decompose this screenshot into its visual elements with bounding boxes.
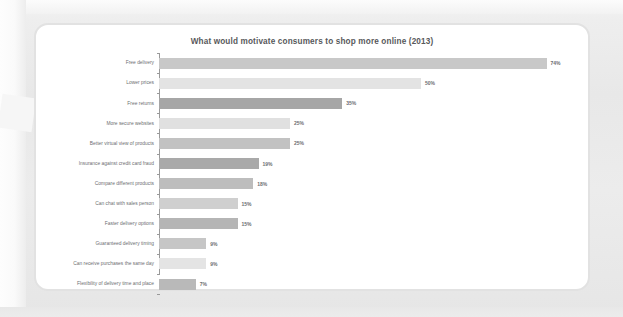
chart-title: What would motivate consumers to shop mo… [36, 37, 588, 46]
plot-area: Free delivery74%Lower prices50%Free retu… [56, 53, 578, 275]
bar [159, 238, 206, 249]
bar-track: 74% [159, 53, 578, 73]
bar-value-label: 7% [200, 281, 207, 287]
bar-value-label: 9% [210, 241, 217, 247]
bar-category-label: Better virtual view of products [56, 141, 159, 146]
bar [159, 279, 196, 290]
bar-track: 25% [159, 113, 578, 133]
bar-track: 9% [159, 234, 578, 254]
bar-track: 25% [159, 133, 578, 153]
bar-category-label: Lower prices [56, 80, 159, 85]
bar-category-label: Faster delivery options [56, 221, 159, 226]
bar-category-label: Flexibility of delivery time and place [56, 281, 159, 286]
chart-card: What would motivate consumers to shop mo… [34, 23, 590, 291]
bar-category-label: Free delivery [56, 60, 159, 65]
bar-value-label: 50% [425, 80, 435, 86]
bar [159, 118, 290, 129]
bar-row: Can receive purchases the same day9% [56, 254, 578, 274]
bar-row: Can chat with sales person15% [56, 194, 578, 214]
bar-row: Free delivery74% [56, 53, 578, 73]
paper-edge-top [0, 0, 623, 14]
bar-value-label: 74% [551, 60, 561, 66]
bar [159, 158, 259, 169]
bar-row: More secure websites25% [56, 113, 578, 133]
bar [159, 98, 342, 109]
bar-track: 35% [159, 93, 578, 113]
bar-category-label: Compare different products [56, 181, 159, 186]
bar-row: Insurance against credit card fraud19% [56, 153, 578, 173]
axis-tick [157, 294, 160, 295]
paper-edge-left [0, 0, 26, 317]
bar [159, 138, 290, 149]
bar-value-label: 18% [257, 181, 267, 187]
bar-row: Better virtual view of products25% [56, 133, 578, 153]
bar [159, 198, 238, 209]
bar-row: Free returns35% [56, 93, 578, 113]
bar-rows-container: Free delivery74%Lower prices50%Free retu… [56, 53, 578, 294]
bar-row: Flexibility of delivery time and place7% [56, 274, 578, 294]
bar-track: 15% [159, 194, 578, 214]
bar-track: 50% [159, 73, 578, 93]
bar-row: Lower prices50% [56, 73, 578, 93]
bar-track: 9% [159, 254, 578, 274]
bar-value-label: 19% [263, 161, 273, 167]
bar-category-label: Free returns [56, 101, 159, 106]
bar [159, 178, 253, 189]
bar-value-label: 9% [210, 261, 217, 267]
paper-edge-bottom [0, 307, 623, 317]
bar-value-label: 25% [294, 120, 304, 126]
bar-value-label: 35% [346, 100, 356, 106]
bar-value-label: 25% [294, 140, 304, 146]
bar-row: Faster delivery options15% [56, 214, 578, 234]
paper-tear-notch [0, 94, 36, 132]
bar-track: 15% [159, 214, 578, 234]
bar [159, 218, 238, 229]
bar-track: 18% [159, 174, 578, 194]
bar-category-label: More secure websites [56, 121, 159, 126]
bar [159, 258, 206, 269]
bar [159, 78, 421, 89]
bar-category-label: Can chat with sales person [56, 201, 159, 206]
bar-track: 7% [159, 274, 578, 294]
bar-value-label: 15% [242, 201, 252, 207]
bar-track: 19% [159, 153, 578, 173]
bar-row: Guaranteed delivery timing9% [56, 234, 578, 254]
bar-category-label: Insurance against credit card fraud [56, 161, 159, 166]
bar-value-label: 15% [242, 221, 252, 227]
bar [159, 58, 547, 69]
bar-category-label: Can receive purchases the same day [56, 261, 159, 266]
bar-row: Compare different products18% [56, 174, 578, 194]
bar-category-label: Guaranteed delivery timing [56, 241, 159, 246]
